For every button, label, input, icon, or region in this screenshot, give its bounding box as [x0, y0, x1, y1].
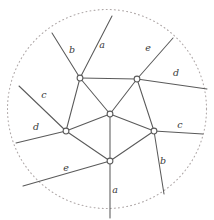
edge-label-d-ray-d-right-upper: d	[173, 68, 179, 78]
ray-d-right-upper	[137, 79, 207, 89]
boundary-circle	[8, 10, 207, 209]
edge-label-c-ray-c-right: c	[177, 120, 182, 130]
vertex-v-top-right	[134, 76, 140, 82]
ray-b-top-left	[52, 33, 80, 78]
graph-figure: baedcdcbea	[0, 0, 214, 220]
edge-label-a-ray-a-top: a	[99, 40, 105, 50]
e-tr-r	[137, 79, 154, 131]
edge-label-e-ray-e-top-right: e	[145, 43, 151, 53]
vertex-v-bottom	[107, 158, 113, 164]
ray-e-top-right	[137, 38, 173, 79]
inner-edge-group	[66, 78, 154, 161]
e-c-l	[66, 114, 110, 131]
edge-label-a-ray-a-bottom: a	[112, 185, 118, 195]
e-tl-l	[66, 78, 80, 131]
vertex-v-center	[107, 111, 113, 117]
graph-canvas	[0, 0, 214, 220]
e-tl-c	[80, 78, 110, 114]
edge-label-d-ray-d-left: d	[33, 122, 39, 132]
edge-label-b-ray-b-right-lower: b	[160, 156, 166, 166]
ray-a-top	[80, 16, 112, 78]
vertex-v-left	[63, 128, 69, 134]
ray-c-right	[154, 131, 203, 134]
e-c-r	[110, 114, 154, 131]
e-l-b	[66, 131, 110, 161]
e-b-r	[110, 131, 154, 161]
vertex-v-top-left	[77, 75, 83, 81]
edge-label-e-ray-e-bottom-left: e	[63, 163, 69, 173]
vertex-v-right	[151, 128, 157, 134]
edge-label-c-ray-c-left-upper: c	[41, 90, 46, 100]
edge-label-b-ray-b-top-left: b	[69, 45, 75, 55]
e-tl-tr	[80, 78, 137, 79]
ray-d-left	[16, 131, 66, 143]
e-tr-c	[110, 79, 137, 114]
